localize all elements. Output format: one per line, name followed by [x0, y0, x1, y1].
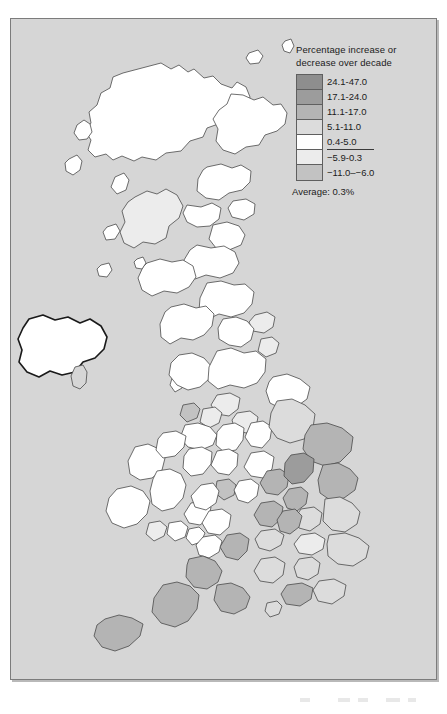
map-page: Percentage increase or decrease over dec…: [0, 0, 447, 714]
legend-label-4: 0.4-5.0: [327, 134, 374, 149]
legend-swatch-2: [297, 105, 322, 120]
legend-label-5: −5.9-0.3: [327, 149, 374, 165]
legend-swatch-1: [297, 90, 322, 105]
region-north-yorkshire: [208, 348, 266, 389]
legend-swatch-4: [297, 135, 322, 150]
legend-label-6: −11.0–−6.0: [327, 165, 374, 180]
legend-swatch-0: [297, 75, 322, 90]
legend-label-3: 5.1-11.0: [327, 119, 374, 134]
map-legend: Percentage increase or decrease over dec…: [288, 44, 430, 197]
legend-label-column: 24.1-47.0 17.1-24.0 11.1-17.0 5.1-11.0 0…: [327, 74, 374, 180]
legend-label-1: 17.1-24.0: [327, 89, 374, 104]
legend-label-2: 11.1-17.0: [327, 104, 374, 119]
legend-label-0: 24.1-47.0: [327, 74, 374, 89]
region-lothian: [209, 222, 245, 250]
legend-title: Percentage increase or decrease over dec…: [296, 44, 422, 69]
page-artifacts: [300, 698, 440, 706]
legend-swatch-3: [297, 120, 322, 135]
legend-swatch-6: [297, 165, 322, 180]
legend-average-label: Average: 0.3%: [292, 186, 430, 197]
legend-swatch-5: [297, 150, 322, 165]
legend-body: 24.1-47.0 17.1-24.0 11.1-17.0 5.1-11.0 0…: [296, 74, 430, 181]
legend-swatch-column: [296, 74, 323, 181]
